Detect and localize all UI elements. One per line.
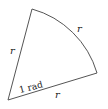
bottom-radius-label: r <box>55 89 61 100</box>
left-radius-label: r <box>10 45 16 56</box>
arc-label: r <box>77 23 83 34</box>
sector-diagram: r r r 1 rad <box>0 0 108 109</box>
